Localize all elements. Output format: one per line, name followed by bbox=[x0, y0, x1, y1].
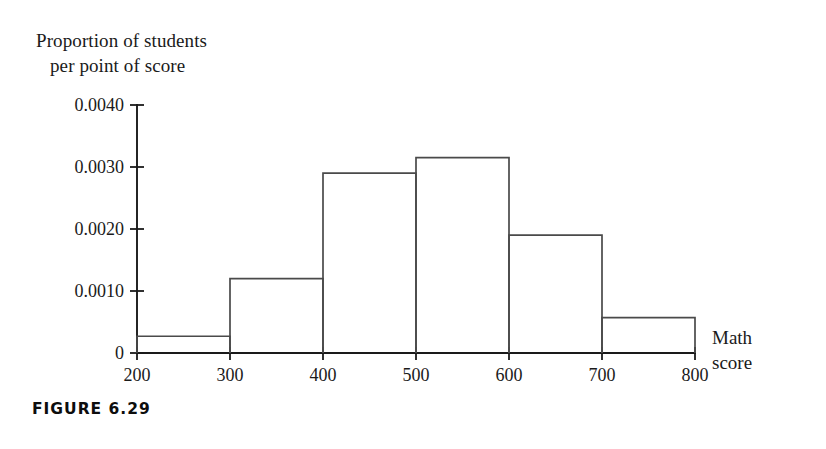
figure-container: Proportion of studentsper point of score… bbox=[0, 0, 826, 449]
histogram-bar bbox=[230, 279, 323, 353]
bar-600-700 bbox=[509, 235, 602, 353]
x-tick-label: 700 bbox=[572, 366, 632, 384]
histogram-bar bbox=[137, 336, 230, 353]
x-tick-label: 600 bbox=[479, 366, 539, 384]
bar-700-800 bbox=[602, 318, 695, 353]
histogram-bar bbox=[602, 318, 695, 353]
y-tick-label: 0.0030 bbox=[75, 158, 125, 176]
x-tick-label: 300 bbox=[200, 366, 260, 384]
y-tick-label: 0.0040 bbox=[75, 96, 125, 114]
x-tick-label: 800 bbox=[665, 366, 725, 384]
bars-layer bbox=[137, 158, 695, 353]
bar-400-500 bbox=[323, 173, 416, 353]
histogram-bar bbox=[323, 173, 416, 353]
y-tick-label: 0.0020 bbox=[75, 220, 125, 238]
histogram-bar bbox=[416, 158, 509, 353]
bar-500-600 bbox=[416, 158, 509, 353]
x-tick-label: 500 bbox=[386, 366, 446, 384]
y-tick-label: 0 bbox=[115, 344, 124, 362]
histogram-bar bbox=[509, 235, 602, 353]
x-tick-label: 400 bbox=[293, 366, 353, 384]
figure-caption: FIGURE 6.29 bbox=[32, 400, 151, 418]
axes-layer bbox=[130, 105, 695, 360]
x-tick-label: 200 bbox=[107, 366, 167, 384]
y-tick-label: 0.0010 bbox=[75, 282, 125, 300]
bar-300-400 bbox=[230, 279, 323, 353]
bar-200-300 bbox=[137, 336, 230, 353]
